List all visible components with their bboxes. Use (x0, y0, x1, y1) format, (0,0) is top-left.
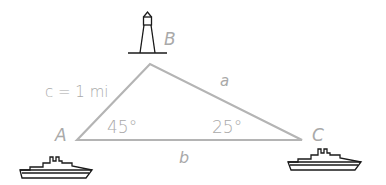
vertex-label-a: A (54, 125, 67, 145)
angle-label-a: 45° (107, 117, 137, 137)
ship-icon-a (20, 157, 92, 178)
ship-icon-c (288, 149, 361, 170)
vertex-label-c: C (312, 125, 324, 145)
side-label-c: c = 1 mi (45, 83, 108, 101)
side-label-a: a (220, 72, 229, 90)
side-label-b: b (179, 148, 189, 167)
triangle-diagram: B A C c = 1 mi a b 45° 25° (0, 0, 386, 185)
angle-label-c: 25° (212, 117, 242, 137)
lighthouse-icon (128, 12, 167, 53)
vertex-label-b: B (164, 29, 176, 49)
